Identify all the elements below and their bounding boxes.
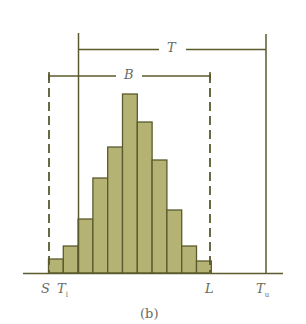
bar-9 <box>167 210 182 273</box>
bar-11 <box>197 261 212 273</box>
label-T: T <box>167 41 176 54</box>
histogram-diagram <box>0 0 306 324</box>
bar-6 <box>123 94 138 273</box>
bar-8 <box>152 160 167 273</box>
label-S: S <box>41 282 50 295</box>
bar-1 <box>49 259 64 273</box>
label-L: L <box>205 282 214 295</box>
label-T-lower-sub: l <box>66 291 68 299</box>
label-B: B <box>124 68 134 81</box>
label-T-upper-sub: u <box>265 291 270 299</box>
label-T-upper: Tu <box>256 282 269 299</box>
bar-4 <box>93 178 108 273</box>
bar-5 <box>108 147 123 273</box>
bar-2 <box>63 246 78 273</box>
histogram-bars <box>49 94 212 273</box>
bar-3 <box>78 219 93 273</box>
label-T-lower: Tl <box>57 282 68 299</box>
label-T-upper-main: T <box>256 281 265 296</box>
bar-10 <box>182 246 197 273</box>
bar-7 <box>137 122 152 273</box>
figure-caption: (b) <box>140 307 158 320</box>
label-T-lower-main: T <box>57 281 66 296</box>
